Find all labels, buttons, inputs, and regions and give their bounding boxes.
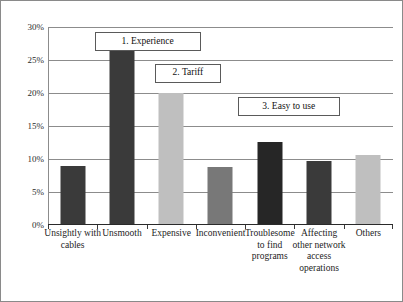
bar-slot (294, 27, 343, 225)
plot-area: 0%5%10%15%20%25%30% (48, 27, 393, 225)
bars-group (48, 27, 393, 225)
y-axis-tick-label: 30% (28, 23, 45, 32)
annotation-callout[interactable]: 2. Tariff (155, 64, 221, 83)
bar[interactable] (109, 43, 134, 225)
bar[interactable] (60, 166, 85, 224)
y-axis-tick-label: 5% (32, 188, 44, 197)
bar[interactable] (159, 93, 184, 224)
bar[interactable] (257, 142, 282, 225)
x-axis-category-labels: Unsightly with cablesUnsmoothExpensiveIn… (48, 228, 393, 302)
chart-figure: 0%5%10%15%20%25%30% Unsightly with cable… (0, 0, 403, 302)
bar-slot (196, 27, 245, 225)
y-axis-tick-label: 0% (32, 221, 44, 230)
y-axis-tick-label: 20% (28, 89, 45, 98)
bar[interactable] (208, 167, 233, 224)
bar-slot (97, 27, 146, 225)
y-axis-tick-label: 10% (28, 155, 45, 164)
bar-slot (344, 27, 393, 225)
bar-slot (147, 27, 196, 225)
bar[interactable] (356, 155, 381, 224)
bar-slot (245, 27, 294, 225)
y-axis-tick-label: 25% (28, 56, 45, 65)
y-axis-tick-label: 15% (28, 122, 45, 131)
bar-slot (48, 27, 97, 225)
x-axis-category-label: Others (340, 228, 397, 240)
annotation-callout[interactable]: 1. Experience (95, 32, 201, 51)
annotation-callout[interactable]: 3. Easy to use (238, 97, 340, 116)
bar[interactable] (307, 161, 332, 224)
